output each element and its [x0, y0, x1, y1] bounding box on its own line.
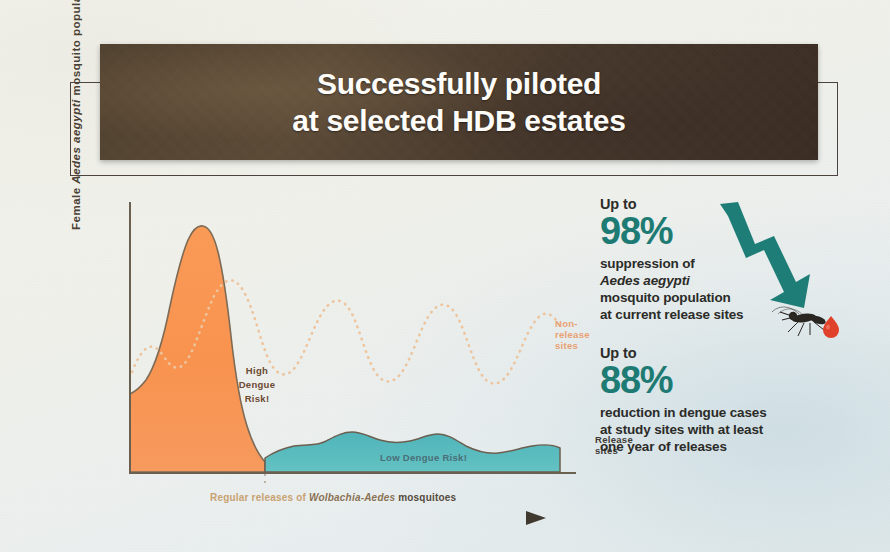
mosquito-population-chart: Female Aedes aegypti mosquito population: [78, 196, 598, 536]
chart-plot-area: High Dengue Risk! Low Dengue Risk! Non-r…: [108, 196, 578, 488]
x-caption-species: Wolbachia-Aedes: [309, 492, 395, 503]
x-caption-suffix: mosquitoes: [395, 492, 456, 503]
high-risk-line3: Risk!: [230, 392, 284, 406]
x-caption-prefix: Regular releases of: [210, 492, 309, 503]
banner-box: Successfully piloted at selected HDB est…: [100, 44, 818, 160]
suppression-stat-block: Up to 98% suppression of Aedes aegypti m…: [600, 196, 856, 323]
release-timeline-arrow-icon: [194, 508, 554, 528]
chart-x-axis-caption: Regular releases of Wolbachia-Aedes mosq…: [210, 492, 456, 503]
suppression-desc-species: Aedes aegypti: [600, 272, 856, 289]
suppression-desc-line4: at current release sites: [600, 306, 856, 323]
stats-column: Up to 98% suppression of Aedes aegypti m…: [600, 196, 856, 473]
y-axis-label-prefix: Female: [70, 184, 82, 230]
page-title: Successfully piloted at selected HDB est…: [100, 44, 818, 160]
high-risk-line2: Dengue: [230, 378, 284, 392]
y-axis-label-species: Aedes aegypti: [70, 99, 82, 183]
reduction-description: reduction in dengue cases at study sites…: [600, 404, 856, 455]
reduction-desc-line1: reduction in dengue cases: [600, 404, 856, 421]
suppression-description: suppression of Aedes aegypti mosquito po…: [600, 255, 856, 323]
suppression-percent-value: 98%: [600, 213, 856, 250]
y-axis-label-suffix: mosquito population: [70, 0, 82, 99]
non-release-sites-legend-label: Non-release sites: [555, 318, 590, 351]
low-dengue-risk-label: Low Dengue Risk!: [380, 452, 467, 463]
orange-peak-area: [130, 226, 265, 472]
chart-svg: [108, 196, 578, 488]
infographic-page: Successfully piloted at selected HDB est…: [0, 0, 890, 552]
reduction-percent-value: 88%: [600, 362, 856, 399]
page-title-line1: Successfully piloted: [317, 66, 601, 101]
suppression-desc-line3: mosquito population: [600, 289, 856, 306]
chart-y-axis-label: Female Aedes aegypti mosquito population: [70, 0, 88, 230]
page-title-line2: at selected HDB estates: [292, 103, 625, 138]
high-risk-line1: High: [230, 364, 284, 378]
reduction-desc-line3: at study sites with at least: [600, 421, 856, 438]
dengue-reduction-stat-block: Up to 88% reduction in dengue cases at s…: [600, 345, 856, 455]
suppression-desc-line1: suppression of: [600, 255, 856, 272]
reduction-desc-line4: one year of releases: [600, 438, 856, 455]
high-dengue-risk-label: High Dengue Risk!: [230, 364, 284, 405]
